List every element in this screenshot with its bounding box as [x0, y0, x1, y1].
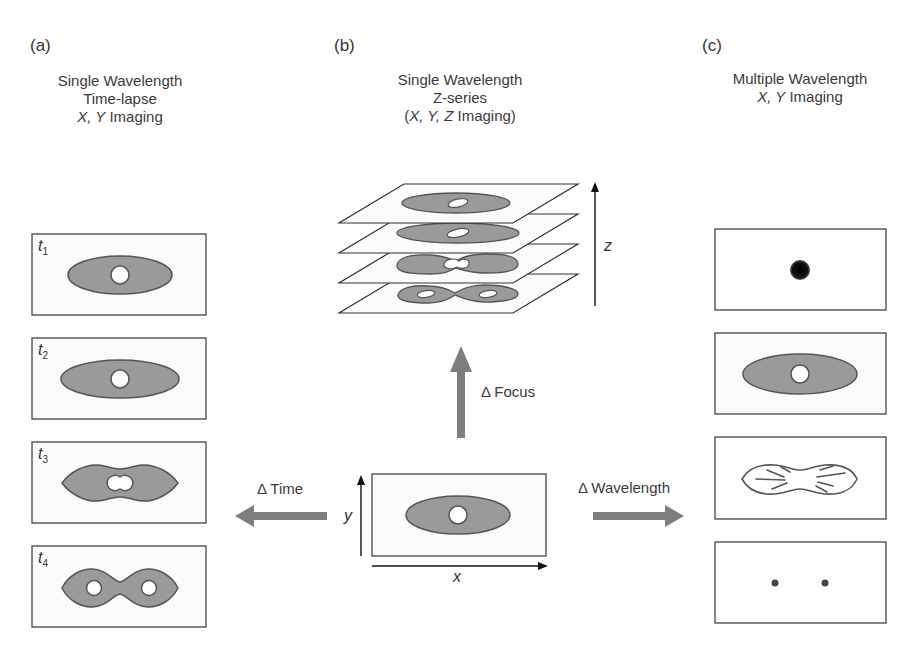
z-axis-label: z [604, 237, 612, 255]
focus-arrow-label: Δ Focus [481, 383, 535, 400]
time-label-t1: t1 [38, 237, 48, 257]
panel-a-title-imaging: Imaging [105, 108, 163, 125]
panel-c-title: Multiple Wavelength X, Y Imaging [710, 70, 890, 106]
wavelength-arrow-label: Δ Wavelength [578, 479, 670, 496]
panel-a-title: Single Wavelength Time-lapse X, Y Imagin… [40, 72, 200, 126]
panel-a-title-xy: X, Y [77, 108, 105, 125]
panel-b-z-stack [339, 184, 578, 313]
panel-a-label: (a) [30, 36, 51, 56]
panel-a-frame-t1 [32, 234, 206, 315]
y-axis-label: y [344, 507, 352, 525]
panel-c-title-line1: Multiple Wavelength [710, 70, 890, 88]
panel-c-frame-1 [715, 229, 886, 310]
time-arrow [235, 505, 327, 527]
panel-c-frame-3 [715, 437, 886, 519]
time-label-t3: t3 [38, 445, 48, 465]
panel-a-title-line1: Single Wavelength [40, 72, 200, 90]
panel-b-title-line3: (X, Y, Z Imaging) [380, 107, 540, 125]
panel-c-title-xy: X, Y [757, 88, 785, 105]
time-label-t2: t2 [38, 341, 48, 361]
panel-c-label: (c) [702, 36, 722, 56]
center-frame [372, 474, 546, 556]
panel-a-frame-t4 [32, 546, 206, 627]
time-arrow-label: Δ Time [257, 480, 303, 497]
panel-b-title-line2: Z-series [380, 89, 540, 107]
panel-c-title-line2: X, Y Imaging [710, 88, 890, 106]
panel-b-title: Single Wavelength Z-series (X, Y, Z Imag… [380, 71, 540, 125]
panel-b-title-line1: Single Wavelength [380, 71, 540, 89]
panel-a-frame-t2 [32, 338, 206, 419]
focus-arrow [450, 346, 472, 438]
panel-c-frame-4 [715, 542, 886, 623]
panel-c-frame-2 [715, 333, 886, 414]
panel-a-title-line2: Time-lapse [40, 90, 200, 108]
panel-b-label: (b) [334, 36, 355, 56]
panel-a-frame-t3 [32, 442, 206, 523]
wavelength-arrow [593, 505, 684, 527]
x-axis-label: x [453, 568, 461, 586]
time-label-t4: t4 [38, 549, 48, 569]
panel-b-title-xyz: X, Y, Z [409, 107, 453, 124]
panel-a-title-line3: X, Y Imaging [40, 108, 200, 126]
